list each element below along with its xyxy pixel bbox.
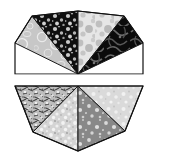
top-half-group bbox=[15, 11, 143, 74]
horizontal-gap-band bbox=[0, 75, 181, 86]
bottom-half-group bbox=[15, 86, 143, 151]
figure-container bbox=[0, 0, 181, 166]
heptagon-segment-figure bbox=[0, 0, 181, 166]
